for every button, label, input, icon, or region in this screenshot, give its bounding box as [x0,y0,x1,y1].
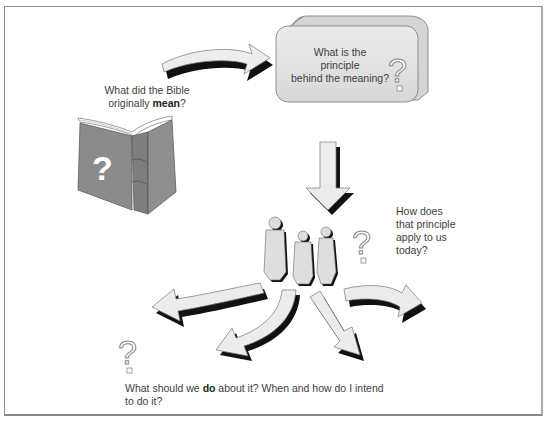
question-mark-outline-icon: ? [352,223,371,263]
meaning-question-label: What did the Bible originally mean? [92,84,202,110]
action-line-1-suffix: about it? When and how do I intend [215,382,383,394]
meaning-line-1: What did the Bible [92,84,202,97]
meaning-line-2-prefix: originally [108,97,152,109]
meaning-line-2: originally mean? [92,97,202,110]
action-line-1: What should we do about it? When and how… [125,382,384,395]
svg-text:?: ? [92,149,113,187]
svg-text:?: ? [352,223,371,261]
arrow-right-icon [344,285,426,323]
principle-line-1: What is the [286,46,394,59]
action-emphasis: do [203,382,216,394]
curved-arrow-right-icon [162,44,273,81]
meaning-line-2-suffix: ? [180,97,186,109]
action-question-label: What should we do about it? When and how… [125,382,384,408]
people-group-icon [264,217,338,286]
action-line-1-prefix: What should we [125,382,203,394]
action-line-2: to do it? [125,395,384,408]
book-with-question-mark-icon: ? [78,116,176,214]
application-question-label: How does that principle apply to us toda… [396,205,456,257]
arrow-left-icon [152,283,268,327]
application-line-1: How does [396,205,456,218]
application-line-3: apply to us [396,231,456,244]
application-line-4: today? [396,244,456,257]
arrow-down-icon [306,142,354,215]
svg-text:?: ? [118,333,137,371]
principle-line-2: principle [286,59,394,72]
diagram-artwork: ? ? ? [0,0,549,427]
application-line-2: that principle [396,218,456,231]
principle-question-label: What is the principle behind the meaning… [286,46,394,85]
principle-line-3: behind the meaning? [286,72,394,85]
meaning-emphasis: mean [153,97,180,109]
question-mark-outline-icon: ? [118,333,137,373]
